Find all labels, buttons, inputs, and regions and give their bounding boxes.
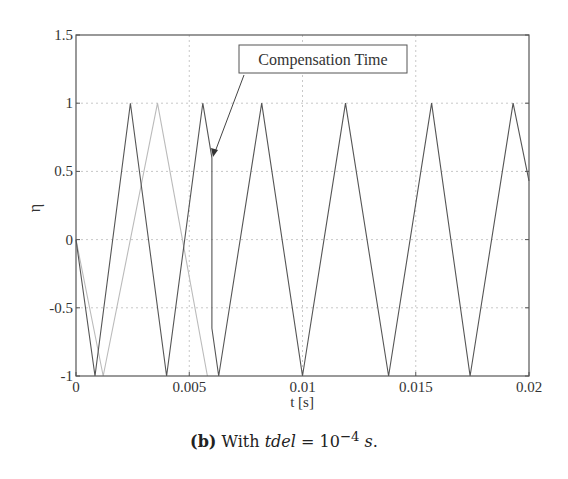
y-tick-label: -0.5 xyxy=(49,300,73,316)
caption-unit: s xyxy=(359,432,372,451)
annotation-label: Compensation Time xyxy=(258,51,387,69)
caption-exponent: −4 xyxy=(340,429,360,444)
y-tick-label: 1 xyxy=(66,95,74,111)
y-axis-label: η xyxy=(26,204,44,212)
x-axis-label: t [s] xyxy=(290,394,314,410)
chart-plot: 00.0050.010.0150.02-1-0.500.511.5 Compen… xyxy=(0,0,568,420)
x-tick-label: 0.005 xyxy=(172,379,206,395)
x-tick-label: 0.01 xyxy=(289,379,315,395)
y-tick-label: -1 xyxy=(61,368,74,384)
caption-equals: = 10 xyxy=(296,432,340,451)
caption-period: . xyxy=(373,432,378,451)
x-tick-label: 0.015 xyxy=(399,379,433,395)
x-tick-label: 0.02 xyxy=(516,379,542,395)
x-tick-label: 0 xyxy=(72,379,80,395)
caption-text: With xyxy=(216,432,264,451)
y-tick-label: 1.5 xyxy=(54,27,73,43)
axis-ticks: 00.0050.010.0150.02-1-0.500.511.5 xyxy=(49,27,542,395)
annotation-arrow xyxy=(215,75,244,152)
caption-variable: tdel xyxy=(265,432,296,451)
figure-caption: (b) With tdel = 10−4 s. xyxy=(0,429,568,451)
y-tick-label: 0 xyxy=(66,232,74,248)
figure: 00.0050.010.0150.02-1-0.500.511.5 Compen… xyxy=(0,0,568,479)
y-tick-label: 0.5 xyxy=(54,163,73,179)
annotation: Compensation Time xyxy=(211,45,407,157)
caption-label: (b) xyxy=(190,432,216,451)
